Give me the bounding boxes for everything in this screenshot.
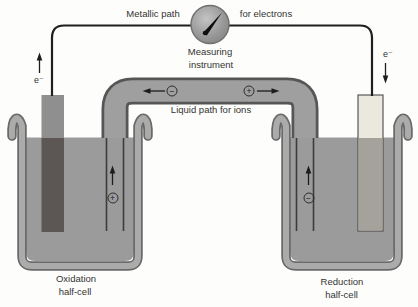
electrochemical-cell-figure: − + + − Metallic path for electrons Meas… bbox=[0, 0, 418, 307]
anion-icon: − bbox=[303, 192, 314, 203]
liquid-path-label: Liquid path for ions bbox=[171, 104, 251, 116]
for-electrons-label: for electrons bbox=[240, 8, 292, 20]
cation-icon: + bbox=[244, 86, 255, 97]
oxidation-half-cell-label-line1: Oxidation bbox=[56, 273, 96, 285]
reduction-electrode bbox=[358, 95, 383, 231]
oxidation-electrode bbox=[42, 95, 65, 232]
galvanometer-icon bbox=[191, 6, 229, 44]
reduction-half-cell-label-line2: half-cell bbox=[325, 289, 358, 301]
anion-icon: − bbox=[167, 86, 178, 97]
electron-label-right: e⁻ bbox=[383, 48, 393, 60]
cation-icon: + bbox=[107, 192, 118, 203]
electron-label-left: e⁻ bbox=[34, 74, 44, 86]
oxidation-half-cell-label-line2: half-cell bbox=[59, 286, 92, 298]
measuring-instrument-label-line1: Measuring bbox=[188, 46, 232, 58]
metallic-path-label: Metallic path bbox=[126, 8, 179, 20]
measuring-instrument-label-line2: instrument bbox=[189, 59, 233, 71]
reduction-half-cell-label-line1: Reduction bbox=[321, 276, 364, 288]
